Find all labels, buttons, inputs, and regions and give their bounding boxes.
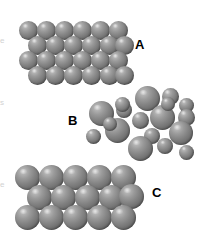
sphere	[82, 66, 101, 85]
edge-text-fragment-bottom: e	[0, 181, 5, 189]
sphere	[115, 97, 130, 112]
figure-canvas: e s e A B C	[0, 0, 217, 242]
sphere	[157, 138, 173, 154]
sphere	[132, 112, 149, 129]
sphere	[15, 205, 40, 230]
sphere	[87, 205, 112, 230]
structure-a-label: A	[135, 38, 144, 51]
edge-text-fragment-top: e	[0, 37, 5, 45]
sphere	[128, 136, 153, 161]
sphere	[161, 97, 175, 111]
sphere	[111, 205, 136, 230]
sphere	[179, 145, 194, 160]
sphere	[169, 121, 193, 145]
sphere	[39, 205, 64, 230]
edge-text-fragment-middle: s	[0, 99, 5, 107]
sphere	[28, 66, 47, 85]
sphere	[63, 205, 88, 230]
sphere	[103, 117, 117, 131]
structure-b-label: B	[68, 114, 77, 127]
sphere	[46, 66, 65, 85]
sphere	[86, 129, 101, 144]
structure-c-label: C	[152, 186, 161, 199]
sphere	[115, 66, 134, 85]
sphere	[64, 66, 83, 85]
